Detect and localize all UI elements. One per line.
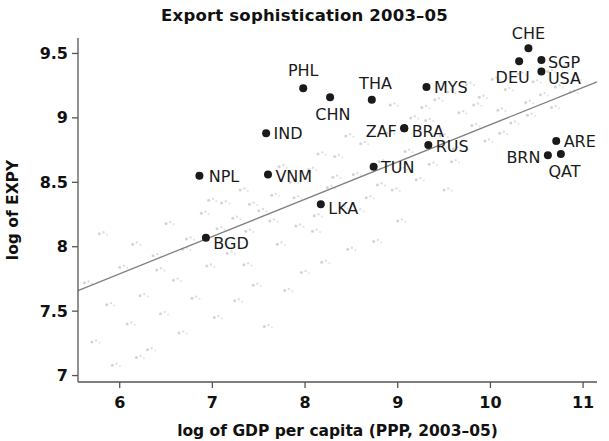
background-point [159,311,169,316]
data-point-bgd [202,234,210,242]
background-point [415,177,425,182]
background-point [420,105,430,110]
background-point [90,339,100,344]
data-point-qat [557,150,565,158]
background-point [126,321,136,326]
background-point [263,324,273,329]
background-point [105,302,115,307]
x-axis-title: log of GDP per capita (PPP, 2003–05) [177,422,498,440]
background-point [372,239,382,244]
x-tick-label: 8 [299,393,310,412]
background-point [200,210,210,215]
point-label-tha: THA [358,74,392,93]
background-point [190,295,200,300]
background-point [313,213,323,218]
data-point-npl [195,172,203,180]
background-point [98,231,108,236]
data-point-deu [515,57,523,65]
point-label-che: CHE [512,24,545,43]
background-point [331,174,341,179]
x-tick-label: 6 [114,393,125,412]
background-point [532,79,542,84]
point-label-npl: NPL [209,167,240,186]
x-tick-label: 7 [207,393,218,412]
background-point [498,131,508,136]
data-point-tun [370,163,378,171]
data-point-vnm [264,171,272,179]
background-point [300,270,310,275]
y-tick-label: 8 [57,237,68,256]
background-point [233,298,243,303]
background-point [509,120,519,125]
y-tick-label: 9 [57,108,68,127]
background-point [213,315,223,320]
background-point [268,218,278,223]
background-point [135,355,145,360]
y-tick-label: 7 [57,366,68,385]
background-point [478,94,488,99]
background-point [311,228,321,233]
data-point-lka [317,200,325,208]
chart-figure: Export sophistication 2003–05 NPLBGDINDV… [0,0,609,441]
data-point-mys [422,83,430,91]
background-point [231,216,241,221]
background-point [539,92,549,97]
background-point [359,141,369,146]
background-point [317,151,327,156]
background-point [131,241,141,246]
background-point [428,161,438,166]
scatter-plot-canvas: NPLBGDINDVNMPHLLKACHNTHATUNZAFBRARUSMYSD… [0,0,609,441]
point-label-bgd: BGD [213,234,248,253]
background-point [270,192,280,197]
y-tick-label: 8.5 [40,173,68,192]
background-point [257,208,267,213]
data-point-tha [368,96,376,104]
data-point-sgp [537,56,545,64]
background-point [496,107,506,112]
background-point [205,263,215,268]
data-point-ind [262,129,270,137]
background-point [294,223,304,228]
point-label-zaf: ZAF [366,122,397,141]
point-label-vnm: VNM [275,167,312,186]
point-label-brn: BRN [506,148,540,167]
data-point-bra [400,124,408,132]
background-point [504,87,514,92]
data-point-chn [326,93,334,101]
background-point [391,187,401,192]
background-point [146,347,156,352]
background-point [396,218,406,223]
y-tick-label: 9.5 [40,44,68,63]
background-point [443,187,453,192]
background-point [172,277,182,282]
point-label-lka: LKA [328,199,358,218]
point-label-qat: QAT [549,162,581,181]
background-point [283,288,293,293]
point-label-ind: IND [274,124,303,143]
point-label-tun: TUN [380,158,414,177]
background-point [550,105,560,110]
data-point-usa [537,67,545,75]
point-label-usa: USA [548,69,581,88]
background-point [472,102,482,107]
background-point [252,283,262,288]
background-point [242,262,252,267]
background-point [389,102,399,107]
background-point [292,195,302,200]
background-point [276,241,286,246]
background-point [409,115,419,120]
x-tick-label: 9 [392,393,403,412]
background-point [526,113,536,118]
background-point [457,110,467,115]
y-axis-title: log of EXPY [4,159,22,260]
point-label-rus: RUS [436,137,469,156]
background-point [178,330,188,335]
background-point [524,100,534,105]
background-point [216,226,226,231]
y-tick-label: 7.5 [40,302,68,321]
background-point [248,201,258,206]
background-point [450,159,460,164]
background-point [118,265,128,270]
point-label-are: ARE [564,132,596,151]
point-label-chn: CHN [315,105,350,124]
